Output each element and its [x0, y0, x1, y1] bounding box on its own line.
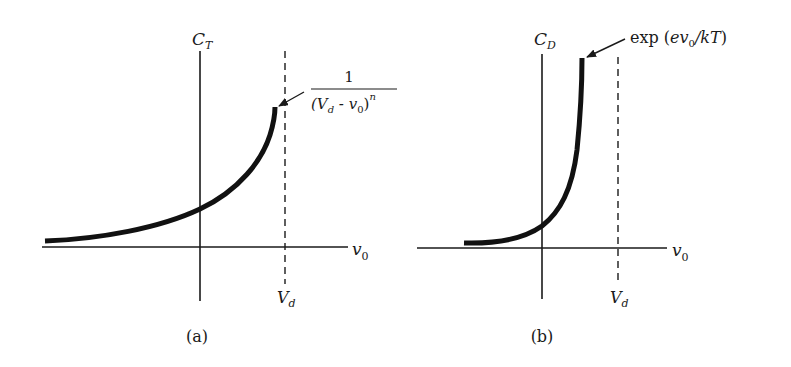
x-axis-label-a: v0 [352, 239, 369, 263]
x-axis-label-b: v0 [672, 240, 689, 264]
annotation-arrow-b [587, 39, 625, 57]
formula-denominator: (Vd - v0)n [311, 91, 376, 115]
panel-caption-a: (a) [186, 327, 208, 346]
panel-b: CD v0 Vd exp (ev0/kT) (b) [417, 28, 727, 346]
annotation-formula-a: 1 (Vd - v0)n [311, 68, 397, 115]
y-axis-label-a: CT [192, 29, 214, 52]
diffusion-capacitance-curve [464, 58, 582, 243]
annotation-arrow-a [279, 92, 304, 106]
asymptote-label-b: Vd [610, 288, 629, 310]
asymptote-label-a: Vd [277, 288, 296, 310]
panel-a: CT v0 Vd 1 (Vd - v0)n (a) [42, 29, 397, 346]
capacitance-diagram: CT v0 Vd 1 (Vd - v0)n (a) CD v0 Vd exp (… [0, 0, 791, 367]
annotation-formula-b: exp (ev0/kT) [630, 28, 727, 49]
y-axis-label-b: CD [534, 29, 556, 52]
formula-numerator: 1 [344, 68, 354, 86]
panel-caption-b: (b) [531, 327, 554, 346]
junction-capacitance-curve [45, 107, 275, 241]
